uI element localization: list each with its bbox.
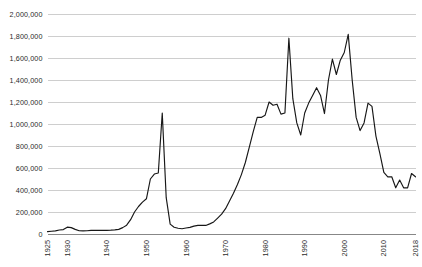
y-axis-tick-label: 800,000 [16,142,43,151]
x-axis-tick-label: 2000 [340,240,349,256]
y-axis-tick-label: 600,000 [16,164,43,173]
y-axis-tick-label: 1,200,000 [10,98,43,107]
x-axis-tick-label: 1960 [182,240,191,256]
y-axis-tick-label: 1,400,000 [10,76,43,85]
chart-canvas: 0200,000400,000600,000800,0001,000,0001,… [0,0,422,267]
y-axis-tick-label: 400,000 [16,186,43,195]
y-axis-tick-label: 2,000,000 [10,10,43,19]
x-axis-tick-label: 1950 [142,240,151,256]
data-series-line [48,34,416,231]
x-axis-tick-labels: 1925193019401950196019701980199020002010… [43,240,420,256]
x-axis-tick-label: 1990 [300,240,309,256]
x-axis-tick-label: 2010 [379,240,388,256]
y-axis-tick-label: 200,000 [16,208,43,217]
y-axis-tick-label: 1,000,000 [10,120,43,129]
x-axis-tick-label: 1980 [261,240,270,256]
gridlines [48,14,416,234]
y-axis-tick-label: 1,600,000 [10,54,43,63]
y-axis-tick-label: 0 [38,230,42,239]
x-axis-tick-label: 1970 [221,240,230,256]
line-chart: 0200,000400,000600,000800,0001,000,0001,… [0,0,422,267]
y-axis-tick-labels: 0200,000400,000600,000800,0001,000,0001,… [10,10,43,239]
x-axis-tick-label: 1940 [102,240,111,256]
x-axis-tick-label: 1925 [43,240,52,256]
x-axis-tick-label: 2018 [411,240,420,256]
x-axis-tick-label: 1930 [63,240,72,256]
y-axis-tick-label: 1,800,000 [10,32,43,41]
